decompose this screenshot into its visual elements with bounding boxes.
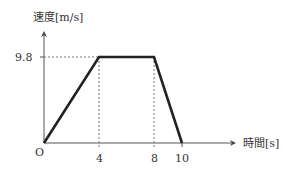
x-axis-label: 時間[s] <box>243 137 279 150</box>
x-tick-label-4: 4 <box>96 152 103 165</box>
velocity-time-chart: 速度[m/s] 9.8 O 4 8 10 時間[s] <box>0 0 295 170</box>
x-tick-label-8: 8 <box>151 152 158 165</box>
velocity-line <box>44 57 182 143</box>
origin-label: O <box>35 146 44 159</box>
x-tick-label-10: 10 <box>175 152 189 165</box>
y-axis-label: 速度[m/s] <box>33 10 83 24</box>
y-tick-label: 9.8 <box>15 51 33 64</box>
